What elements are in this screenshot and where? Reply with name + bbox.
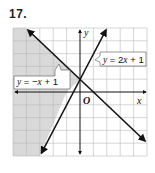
origin-label: O: [83, 95, 90, 106]
eq2-mid: = −: [21, 76, 38, 87]
callout-y-2x-plus-1: y = 2x + 1: [95, 52, 146, 66]
eq1-tail: + 1: [128, 54, 144, 65]
coordinate-graph: y x O y = 2x + 1 y = −x + 1: [0, 0, 155, 173]
svg-text:y = 2x + 1: y = 2x + 1: [102, 54, 144, 65]
eq2-tail: + 1: [42, 76, 58, 87]
svg-text:y = −x + 1: y = −x + 1: [16, 76, 58, 87]
y-axis-label: y: [83, 27, 89, 38]
eq1-mid: = 2: [107, 54, 123, 65]
x-axis-label: x: [136, 95, 142, 106]
